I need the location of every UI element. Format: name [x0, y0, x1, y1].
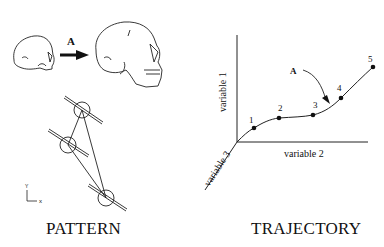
point-3 [311, 113, 316, 118]
annotation-label-A: A [290, 66, 297, 76]
pattern-node-bottom [88, 184, 127, 211]
figure-canvas: A Y x variable 1 var [0, 0, 384, 247]
annotation-arrow [303, 70, 326, 100]
small-skull-icon [14, 36, 54, 70]
trajectory-curve [237, 67, 373, 142]
axis-label-variable-2: variable 2 [284, 148, 324, 159]
axis-label-variable-3: variable 3 [201, 149, 232, 188]
point-label-4: 4 [337, 83, 342, 93]
axis-icon-y-label: Y [25, 183, 29, 189]
caption-trajectory: TRAJECTORY [251, 219, 361, 239]
point-label-1: 1 [249, 115, 254, 125]
axis-icon-x-label: x [39, 198, 42, 204]
point-label-5: 5 [368, 54, 373, 64]
point-label-2: 2 [278, 103, 283, 113]
axis-label-variable-1: variable 1 [217, 72, 228, 112]
point-4 [339, 96, 344, 101]
point-5 [371, 65, 376, 70]
point-2 [277, 116, 282, 121]
annotation-arrowhead-icon [322, 95, 330, 104]
caption-pattern: PATTERN [46, 219, 121, 239]
xy-axis-icon [27, 190, 37, 201]
trajectory-axes [205, 35, 368, 190]
transform-label: A [67, 35, 75, 47]
point-label-3: 3 [313, 100, 318, 110]
transform-arrow-icon [60, 50, 89, 60]
point-1 [252, 126, 257, 131]
large-skull-icon [96, 22, 162, 87]
pattern-node-top [64, 96, 103, 124]
